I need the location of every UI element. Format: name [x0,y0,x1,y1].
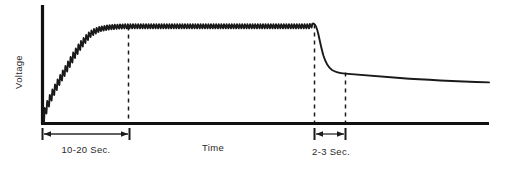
chart-svg: Voltage 10-20 Sec. Time 2-3 Sec. [0,0,508,169]
voltage-curve-rise [44,24,127,123]
y-axis-label: Voltage [13,55,24,89]
x-axis-label: Time [202,142,224,153]
decay-dimension-left-arrow [316,131,323,137]
decay-duration-label: 2-3 Sec. [312,146,350,157]
decay-duration-dimension [315,128,346,140]
voltage-time-chart: Voltage 10-20 Sec. Time 2-3 Sec. [0,0,508,169]
voltage-curve-plateau [127,24,314,29]
rise-dimension-left-arrow [44,131,51,137]
decay-dimension-right-arrow [337,131,344,137]
rise-dimension-right-arrow [121,131,128,137]
rise-duration-dimension [43,128,130,140]
rise-duration-label: 10-20 Sec. [62,144,111,155]
voltage-curve-decay [314,24,489,83]
